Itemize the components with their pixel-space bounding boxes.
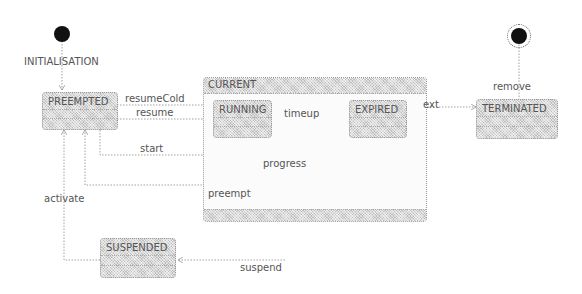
state-terminated[interactable]: TERMINATED	[476, 99, 558, 139]
final-state-node[interactable]	[507, 24, 531, 48]
initial-state-node[interactable]	[54, 26, 70, 42]
transition-label-resumecold[interactable]: resumeCold	[125, 93, 185, 104]
transition-label-resume[interactable]: resume	[136, 107, 174, 118]
transition-label-activate[interactable]: activate	[44, 193, 84, 204]
state-divider	[101, 255, 175, 256]
state-diagram: INITIALISATION PREEMPTED CURRENT RUNNING…	[0, 0, 582, 294]
transition-label-suspend[interactable]: suspend	[240, 262, 282, 273]
final-state-dot	[511, 28, 527, 44]
initialisation-label: INITIALISATION	[24, 56, 99, 67]
state-divider	[214, 117, 271, 118]
transition-label-timeup[interactable]: timeup	[284, 108, 319, 119]
state-divider	[101, 265, 175, 266]
state-divider	[43, 118, 117, 119]
state-expired-title: EXPIRED	[350, 101, 406, 117]
state-running[interactable]: RUNNING	[213, 100, 272, 138]
state-divider	[477, 126, 557, 127]
transition-label-start[interactable]: start	[140, 143, 163, 154]
state-divider	[350, 117, 406, 118]
state-suspended-title: SUSPENDED	[101, 239, 175, 255]
state-divider	[43, 109, 117, 110]
state-running-title: RUNNING	[214, 101, 271, 117]
state-terminated-title: TERMINATED	[477, 100, 557, 116]
state-preempted-title: PREEMPTED	[43, 93, 117, 109]
transition-label-ext[interactable]: ext	[423, 99, 439, 110]
state-current-title: CURRENT	[204, 78, 426, 94]
transition-label-preempt[interactable]: preempt	[208, 188, 251, 199]
state-current-footer	[204, 209, 426, 221]
state-divider	[477, 116, 557, 117]
state-preempted[interactable]: PREEMPTED	[42, 92, 118, 130]
state-divider	[350, 126, 406, 127]
state-expired[interactable]: EXPIRED	[349, 100, 407, 138]
transition-label-remove[interactable]: remove	[493, 81, 531, 92]
state-current[interactable]: CURRENT	[203, 77, 427, 222]
state-divider	[214, 126, 271, 127]
state-suspended[interactable]: SUSPENDED	[100, 238, 176, 278]
transition-label-progress[interactable]: progress	[263, 158, 306, 169]
